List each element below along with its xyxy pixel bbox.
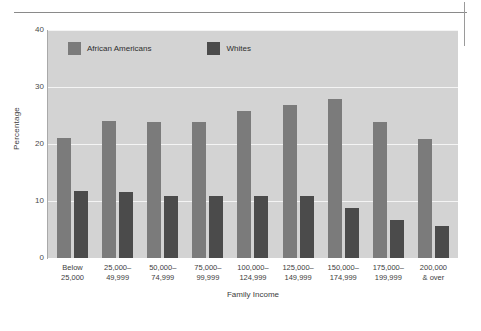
x-tick-label: 125,000–149,999	[276, 263, 321, 283]
plot-area	[48, 30, 458, 258]
bar-group	[185, 30, 230, 258]
bar-group	[50, 30, 95, 258]
x-tick-label: 175,000–199,999	[366, 263, 411, 283]
x-tick-label: 200,000& over	[411, 263, 456, 283]
legend-swatch	[68, 42, 81, 55]
bar	[435, 226, 449, 258]
bar	[254, 196, 268, 258]
x-axis-title: Family Income	[48, 290, 458, 299]
legend-label: Whites	[226, 44, 250, 53]
bar-groups-container	[48, 30, 458, 258]
bar-group	[230, 30, 275, 258]
bar-group	[95, 30, 140, 258]
x-tick-label: 150,000–174,999	[321, 263, 366, 283]
bar	[300, 196, 314, 258]
bar	[283, 105, 297, 258]
x-tick-label: Below25,000	[50, 263, 95, 283]
bar-chart-figure: Percentage 010203040 African AmericansWh…	[0, 0, 481, 331]
bar-group	[321, 30, 366, 258]
bar	[237, 111, 251, 258]
bar	[390, 220, 404, 258]
bar	[102, 121, 116, 258]
y-tick-label-40: 40	[16, 26, 44, 34]
y-tick-label-0: 0	[16, 254, 44, 262]
x-axis-tick-labels: Below25,00025,000–49,99950,000–74,99975,…	[48, 263, 458, 283]
bar	[57, 138, 71, 258]
bar-group	[411, 30, 456, 258]
legend-label: African Americans	[87, 44, 151, 53]
bar	[147, 122, 161, 258]
bar-group	[140, 30, 185, 258]
x-tick-label: 50,000–74,999	[140, 263, 185, 283]
legend-item: Whites	[207, 42, 250, 55]
x-tick-label: 100,000–124,999	[230, 263, 275, 283]
y-tick-label-30: 30	[16, 83, 44, 91]
y-axis-tick-labels: 010203040	[8, 0, 44, 331]
y-tick-label-20: 20	[16, 140, 44, 148]
bar	[373, 122, 387, 258]
bar-group	[366, 30, 411, 258]
bar	[345, 208, 359, 258]
y-tick-label-10: 10	[16, 197, 44, 205]
legend-item: African Americans	[68, 42, 151, 55]
chart-legend: African AmericansWhites	[68, 42, 251, 55]
bar	[192, 122, 206, 258]
bar-group	[276, 30, 321, 258]
x-tick-label: 75,000–99,999	[185, 263, 230, 283]
bar	[209, 196, 223, 258]
bar	[418, 139, 432, 258]
legend-swatch	[207, 42, 220, 55]
bar	[328, 99, 342, 258]
x-tick-label: 25,000–49,999	[95, 263, 140, 283]
bar	[164, 196, 178, 258]
bar	[119, 192, 133, 258]
bar	[74, 191, 88, 258]
